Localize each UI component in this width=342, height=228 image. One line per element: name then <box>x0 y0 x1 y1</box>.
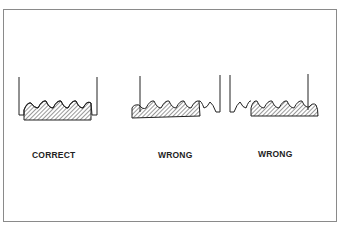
panel-wrong-left-drawing <box>132 75 220 118</box>
panel-label-wrong-left: WRONG <box>158 150 193 160</box>
panel-label-correct: CORRECT <box>32 150 75 160</box>
panel-wrong-right-drawing <box>230 74 318 116</box>
panel-correct-drawing <box>19 77 97 120</box>
panel-label-wrong-right: WRONG <box>258 149 293 159</box>
thread-diagram <box>0 0 342 228</box>
